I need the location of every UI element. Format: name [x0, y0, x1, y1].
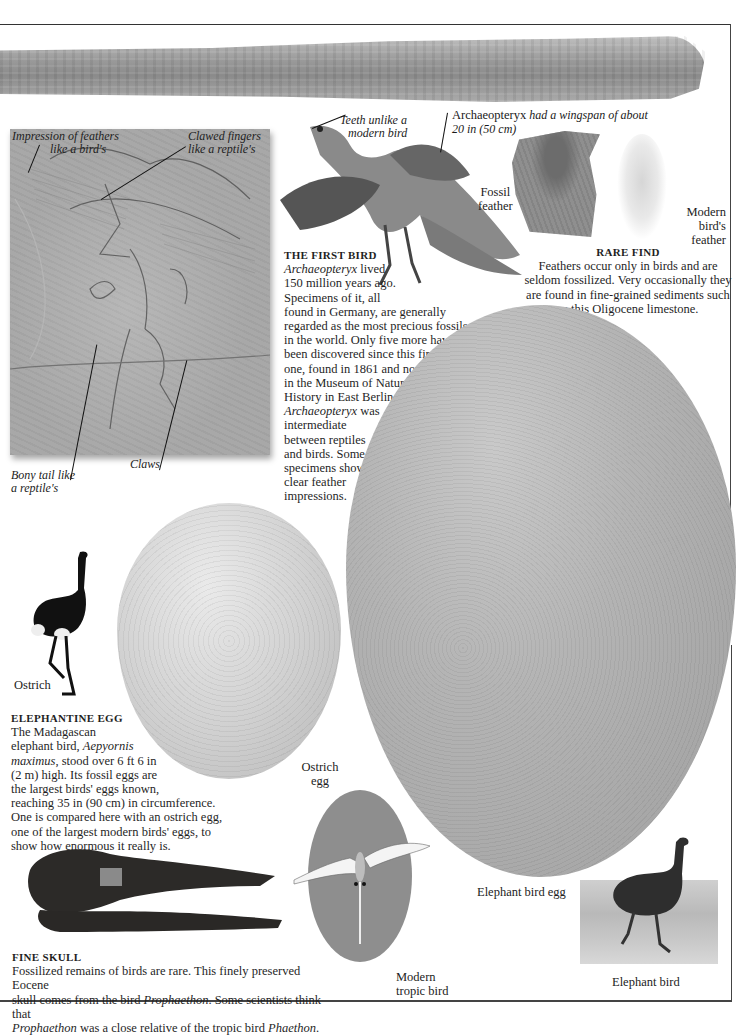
callout-feathers: Impression of feathers like a bird's: [12, 130, 119, 156]
label-ostrich-egg: Ostrich egg: [298, 760, 342, 788]
label-tropic-bird: Modern tropic bird: [396, 970, 448, 998]
elephant-bird-egg-image: [346, 305, 736, 877]
callout-claws: Claws: [130, 458, 160, 471]
callout-bony-tail: Bony tail like a reptile's: [11, 469, 75, 495]
label-elephant-bird: Elephant bird: [612, 975, 680, 989]
callout-teeth: Teeth unlike a modern bird: [340, 114, 407, 140]
label-ostrich: Ostrich: [14, 678, 51, 692]
label-modern-feather: Modern bird's feather: [672, 205, 726, 247]
section-heading: FINE SKULL: [12, 950, 332, 964]
ostrich-illustration: [28, 548, 100, 696]
section-fine-skull: FINE SKULL Fossilized remains of birds a…: [12, 950, 332, 1035]
archaeopteryx-fossil-slab-image: [10, 129, 270, 455]
section-elephantine-egg: ELEPHANTINE EGG The Madagascan elephant …: [11, 711, 251, 853]
page-frame-top: [0, 24, 731, 25]
fossil-bone-image: [0, 36, 706, 102]
prophaethon-skull-image: [20, 840, 282, 935]
label-elephant-bird-egg: Elephant bird egg: [477, 885, 566, 899]
section-heading: ELEPHANTINE EGG: [11, 711, 251, 725]
callout-wingspan: Archaeopteryx had a wingspan of about 20…: [452, 108, 648, 136]
modern-feather-image: [617, 134, 667, 240]
section-heading: THE FIRST BIRD: [284, 248, 494, 262]
fossil-skeleton-drawing: [10, 129, 270, 455]
fossil-feather-image: [512, 131, 600, 237]
page-frame-right-lower: [731, 645, 732, 1001]
elephant-bird-illustration: [600, 834, 700, 964]
tropic-bird-illustration: [290, 832, 435, 947]
section-heading: RARE FIND: [510, 245, 746, 259]
callout-clawed-fingers: Clawed fingers like a reptile's: [188, 130, 261, 156]
label-fossil-feather: Fossil feather: [478, 185, 513, 213]
